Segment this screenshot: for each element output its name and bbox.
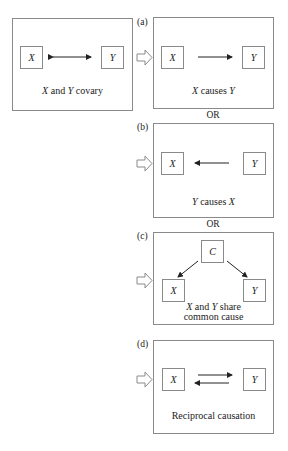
panel-a-node-y: Y [242, 46, 265, 69]
caption-var: X [229, 196, 235, 207]
caption-text: covary [73, 85, 103, 96]
caption-var: Y [229, 85, 235, 96]
panel-d-caption: Reciprocal causation [153, 410, 274, 421]
caption-text: causes [198, 196, 229, 207]
panel-d-node-y: Y [243, 368, 266, 391]
panel-label-a: (a) [137, 17, 148, 27]
or-separator-2: OR [193, 219, 233, 229]
panel-d-node-x: X [162, 368, 185, 391]
panel-c-caption-line2: common cause [153, 311, 274, 322]
panel-c-node-c: C [201, 240, 224, 263]
premise-node-y: Y [101, 46, 124, 69]
caption-text: and [48, 85, 67, 96]
panel-label-c: (c) [137, 231, 148, 241]
panel-c-node-y: Y [243, 279, 266, 302]
or-separator-1: OR [193, 110, 233, 120]
panel-c-node-x: X [162, 279, 185, 302]
panel-a-caption: X causes Y [153, 85, 274, 96]
hollow-arrow-icon [137, 50, 152, 387]
premise-node-x: X [20, 46, 43, 69]
panel-b-caption: Y causes X [153, 196, 274, 207]
premise-caption: X and Y covary [12, 85, 133, 96]
panel-label-d: (d) [137, 339, 148, 349]
panel-b-node-y: Y [243, 152, 266, 175]
panel-b-node-x: X [161, 152, 184, 175]
panel-a-node-x: X [161, 46, 184, 69]
panel-label-b: (b) [137, 122, 148, 132]
caption-text: causes [198, 85, 229, 96]
